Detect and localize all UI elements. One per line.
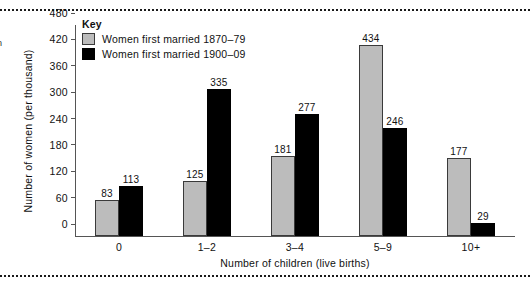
y-axis-tick-label: 60 bbox=[56, 192, 68, 204]
bottom-dotted-divider bbox=[0, 275, 530, 277]
y-axis-tick: 0 bbox=[62, 218, 75, 230]
legend-title: Key bbox=[82, 18, 246, 30]
y-axis-tick-mark bbox=[71, 65, 75, 66]
bar-value-label: 434 bbox=[362, 33, 379, 44]
legend-item: Women first married 1870–79 bbox=[82, 33, 246, 45]
bar-value-label: 125 bbox=[186, 169, 203, 180]
x-axis-tick-label: 3–4 bbox=[251, 241, 339, 253]
bar[interactable]: 181 bbox=[271, 156, 295, 236]
y-axis-tick: 60 bbox=[56, 192, 75, 204]
bar-group: 17729 bbox=[447, 25, 495, 236]
y-axis-tick: 120 bbox=[50, 165, 75, 177]
bar-group: 434246 bbox=[359, 25, 407, 236]
bar-value-label: 335 bbox=[210, 77, 227, 88]
top-dotted-divider bbox=[0, 9, 530, 11]
bar-group: 181277 bbox=[271, 25, 319, 236]
bar-value-label: 246 bbox=[386, 116, 403, 127]
y-axis-tick: 420 bbox=[50, 33, 75, 45]
y-axis-tick-label: 0 bbox=[62, 218, 68, 230]
y-axis-tick-mark bbox=[71, 92, 75, 93]
y-axis-tick-mark bbox=[71, 39, 75, 40]
y-axis-tick-label: 120 bbox=[50, 165, 68, 177]
y-axis-tick-label: 420 bbox=[50, 33, 68, 45]
legend-item-label: Women first married 1900–09 bbox=[102, 48, 246, 60]
x-axis-title: Number of children (live births) bbox=[75, 257, 515, 269]
y-axis-tick-label: 360 bbox=[50, 60, 68, 72]
x-axis-tick-label: 10+ bbox=[427, 241, 515, 253]
bar[interactable]: 277 bbox=[295, 114, 319, 236]
legend-swatch bbox=[82, 33, 95, 45]
bar[interactable]: 434 bbox=[359, 45, 383, 236]
y-axis-tick: 180 bbox=[50, 139, 75, 151]
y-axis-tick-mark bbox=[71, 171, 75, 172]
bar-value-label: 29 bbox=[477, 211, 489, 222]
y-axis-tick-mark bbox=[71, 224, 75, 225]
bar-value-label: 113 bbox=[123, 174, 140, 185]
bar-value-label: 177 bbox=[450, 146, 467, 157]
legend-items: Women first married 1870–79Women first m… bbox=[82, 33, 246, 60]
y-axis-title-wrapper: Number of women (per thousand) bbox=[34, 25, 35, 236]
x-axis-tick-label: 5–9 bbox=[339, 241, 427, 253]
y-axis-tick-label: 480 bbox=[50, 7, 68, 19]
legend-item-label: Women first married 1870–79 bbox=[102, 33, 246, 45]
y-axis-tick-label: 240 bbox=[50, 113, 68, 125]
bar[interactable]: 177 bbox=[447, 158, 471, 236]
y-axis-tick-mark bbox=[71, 118, 75, 119]
bar[interactable]: 83 bbox=[95, 200, 119, 236]
chart-page: n Number of women (per thousand) 0601201… bbox=[0, 0, 530, 284]
x-axis-tick-label: 1–2 bbox=[163, 241, 251, 253]
y-axis-tick-label: 180 bbox=[50, 139, 68, 151]
bar-value-label: 277 bbox=[298, 102, 315, 113]
bar-value-label: 181 bbox=[274, 144, 291, 155]
y-axis-tick-label: 300 bbox=[50, 86, 68, 98]
y-axis-tick-mark bbox=[71, 144, 75, 145]
bar[interactable]: 125 bbox=[183, 181, 207, 236]
bar[interactable]: 246 bbox=[383, 128, 407, 236]
bar-value-label: 83 bbox=[101, 188, 113, 199]
x-axis-tick-label: 0 bbox=[75, 241, 163, 253]
legend-item: Women first married 1900–09 bbox=[82, 48, 246, 60]
y-axis-tick-mark bbox=[71, 197, 75, 198]
legend: Key Women first married 1870–79Women fir… bbox=[82, 18, 246, 63]
bar[interactable]: 335 bbox=[207, 89, 231, 236]
x-axis-line bbox=[75, 236, 515, 237]
y-axis-tick-mark bbox=[71, 13, 75, 14]
legend-swatch bbox=[82, 48, 95, 60]
clipped-text-fragment: n bbox=[0, 38, 2, 48]
y-axis-title: Number of women (per thousand) bbox=[22, 49, 34, 212]
bar[interactable]: 29 bbox=[471, 223, 495, 236]
y-axis-tick: 480 bbox=[50, 7, 75, 19]
bar[interactable]: 113 bbox=[119, 186, 143, 236]
y-axis-tick: 360 bbox=[50, 60, 75, 72]
y-axis-tick: 240 bbox=[50, 113, 75, 125]
y-axis-tick: 300 bbox=[50, 86, 75, 98]
